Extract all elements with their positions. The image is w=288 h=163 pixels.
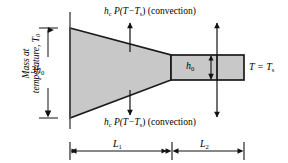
base-height-symbol: 3h <box>31 64 41 75</box>
length2-symbol: L <box>200 138 206 149</box>
base-condition-line1: Mass at <box>21 49 31 79</box>
base-height-subscript: 0 <box>41 69 44 76</box>
base-height-arrow-lower-head <box>45 111 51 118</box>
convection-perimeter-bottom: P(T−T <box>112 117 140 127</box>
convection-suffix-bottom: ) (convection) <box>142 117 196 127</box>
base-height-label: 3h0 <box>31 65 44 75</box>
length1-arrow-right-head <box>166 148 172 154</box>
length1-arrow-left-head <box>71 148 77 154</box>
surface-temperature-symbol: T = T <box>249 61 272 72</box>
tapered-fin-body <box>70 28 171 118</box>
convection-coefficient-subscript-bottom: c <box>109 121 112 128</box>
uniform-fin-tip <box>171 55 244 80</box>
length1-subscript: 1 <box>119 143 122 150</box>
surface-temperature-subscript: s <box>272 66 275 73</box>
length2-arrow-right-head <box>238 148 244 154</box>
convection-label-bottom: hc P(T−Ts) (convection) <box>104 118 196 128</box>
convection-perimeter-top: P(T−T <box>112 6 140 16</box>
length2-label: L2 <box>200 139 209 149</box>
base-temperature-symbol: T <box>30 37 40 42</box>
length2-arrow-left-head <box>173 148 179 154</box>
tapered-fin-diagram: Mass at temperature, T0 3h0 h0 T = Ts hc… <box>0 0 288 163</box>
tip-height-subscript: 0 <box>191 65 194 72</box>
convection-coefficient-subscript-top: c <box>109 10 112 17</box>
convection-surface-subscript-top: s <box>140 10 142 17</box>
convection-suffix-top: ) (convection) <box>142 6 196 16</box>
tip-height-label: h0 <box>186 61 194 71</box>
length2-subscript: 2 <box>206 143 209 150</box>
length1-symbol: L <box>113 138 119 149</box>
length1-label: L1 <box>113 139 122 149</box>
surface-temperature-label: T = Ts <box>249 62 274 72</box>
convection-surface-subscript-bottom: s <box>140 121 142 128</box>
diagram-canvas <box>0 0 288 163</box>
convection-label-top: hc P(T−Ts) (convection) <box>104 7 196 17</box>
